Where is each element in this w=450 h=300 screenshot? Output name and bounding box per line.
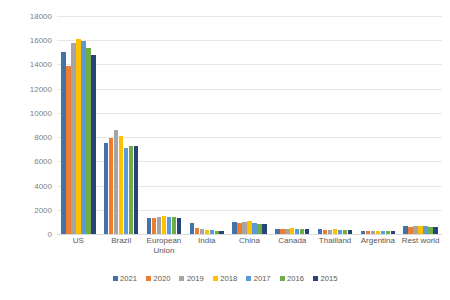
legend-item[interactable]: 2015	[313, 274, 337, 283]
y-axis-tick-label: 4000	[34, 181, 52, 190]
bar[interactable]	[323, 230, 327, 234]
bar[interactable]	[262, 224, 266, 234]
bar[interactable]	[386, 231, 390, 234]
bar-group	[271, 16, 314, 234]
bar[interactable]	[104, 143, 108, 234]
bar[interactable]	[219, 231, 223, 234]
bar[interactable]	[167, 217, 171, 234]
bar[interactable]	[114, 130, 118, 234]
bar[interactable]	[418, 226, 422, 234]
legend-swatch-icon	[246, 276, 251, 281]
bar[interactable]	[205, 230, 209, 234]
bar[interactable]	[371, 231, 375, 234]
bar[interactable]	[147, 218, 151, 234]
legend-item[interactable]: 2018	[213, 274, 237, 283]
bar[interactable]	[408, 227, 412, 235]
bar[interactable]	[433, 227, 437, 234]
bar-group	[100, 16, 143, 234]
bar[interactable]	[361, 231, 365, 234]
bar[interactable]	[275, 229, 279, 234]
legend-item[interactable]: 2017	[246, 274, 270, 283]
legend-label: 2017	[254, 274, 271, 283]
bar[interactable]	[285, 229, 289, 234]
bar[interactable]	[338, 230, 342, 234]
bar[interactable]	[333, 229, 337, 234]
plot-area: 0200040006000800010000120001400016000180…	[57, 16, 442, 234]
bar[interactable]	[423, 226, 427, 234]
bar[interactable]	[257, 224, 261, 234]
bar[interactable]	[343, 230, 347, 234]
legend-item[interactable]: 2016	[280, 274, 304, 283]
bioethanol-production-bar-chart: Bioethanol production (Millions of gallo…	[0, 0, 450, 300]
bar[interactable]	[376, 231, 380, 234]
legend: 2021202020192018201720162015	[0, 274, 450, 283]
bar-group	[314, 16, 357, 234]
bar-group	[356, 16, 399, 234]
bar[interactable]	[76, 39, 80, 234]
bar[interactable]	[305, 229, 309, 234]
bar-group	[228, 16, 271, 234]
bar[interactable]	[215, 231, 219, 234]
y-axis-tick-label: 8000	[34, 133, 52, 142]
bar[interactable]	[200, 229, 204, 234]
bar[interactable]	[210, 230, 214, 234]
bar[interactable]	[232, 222, 236, 234]
legend-swatch-icon	[146, 276, 151, 281]
bar[interactable]	[81, 41, 85, 234]
bar[interactable]	[252, 223, 256, 234]
x-axis-tick-label: Brazil	[100, 236, 143, 256]
legend-item[interactable]: 2019	[179, 274, 203, 283]
y-axis-tick-label: 16000	[30, 36, 52, 45]
bar[interactable]	[157, 217, 161, 234]
bar[interactable]	[366, 231, 370, 234]
bar[interactable]	[152, 218, 156, 234]
y-axis-tick-label: 12000	[30, 84, 52, 93]
bar[interactable]	[247, 221, 251, 234]
x-axis-tick-label: US	[57, 236, 100, 256]
bar[interactable]	[242, 222, 246, 234]
bar[interactable]	[290, 228, 294, 234]
bar-group	[57, 16, 100, 234]
bar[interactable]	[119, 136, 123, 234]
legend-label: 2016	[287, 274, 304, 283]
bar-group	[185, 16, 228, 234]
bar[interactable]	[403, 226, 407, 234]
bar[interactable]	[318, 229, 322, 234]
bars-layer	[57, 16, 442, 234]
bar[interactable]	[195, 228, 199, 234]
bar[interactable]	[295, 229, 299, 234]
bar[interactable]	[391, 231, 395, 234]
bar[interactable]	[172, 217, 176, 234]
bar-group	[143, 16, 186, 234]
x-axis-tick-label: India	[185, 236, 228, 256]
y-axis-tick-label: 18000	[30, 12, 52, 21]
bar[interactable]	[348, 230, 352, 234]
bar[interactable]	[91, 55, 95, 234]
bar[interactable]	[124, 148, 128, 234]
bar[interactable]	[129, 146, 133, 234]
bar[interactable]	[86, 48, 90, 235]
bar[interactable]	[237, 223, 241, 234]
bar[interactable]	[162, 216, 166, 234]
bar[interactable]	[328, 230, 332, 234]
bar[interactable]	[428, 227, 432, 234]
x-axis-tick-label: Canada	[271, 236, 314, 256]
bar[interactable]	[300, 229, 304, 234]
bar[interactable]	[66, 66, 70, 234]
bar[interactable]	[177, 218, 181, 234]
legend-label: 2019	[187, 274, 204, 283]
bar[interactable]	[71, 43, 75, 234]
bar[interactable]	[134, 146, 138, 234]
bar[interactable]	[109, 138, 113, 234]
x-axis-tick-label: Thailland	[314, 236, 357, 256]
bar-group	[399, 16, 442, 234]
bar[interactable]	[190, 223, 194, 234]
x-axis-tick-label: China	[228, 236, 271, 256]
bar[interactable]	[381, 231, 385, 234]
bar[interactable]	[280, 229, 284, 234]
bar[interactable]	[413, 226, 417, 234]
legend-item[interactable]: 2020	[146, 274, 170, 283]
legend-item[interactable]: 2021	[113, 274, 137, 283]
bar[interactable]	[61, 52, 65, 234]
legend-swatch-icon	[113, 276, 118, 281]
